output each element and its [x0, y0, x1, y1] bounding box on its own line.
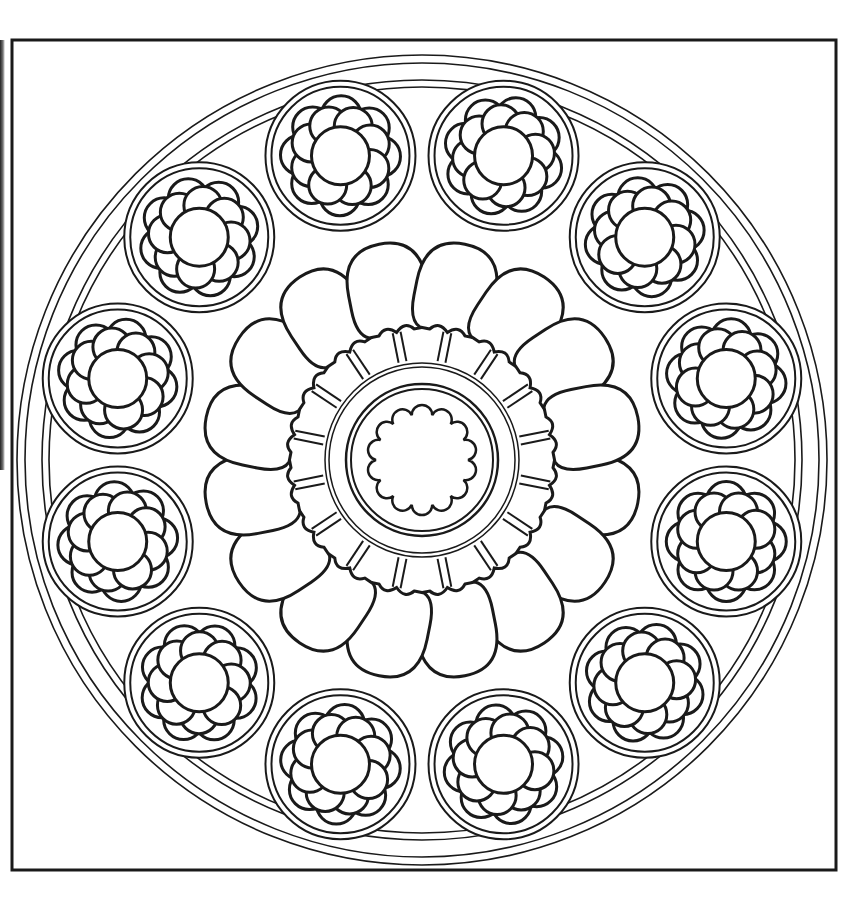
- flower-medallion: [429, 689, 579, 839]
- flower-medallion: [43, 467, 193, 617]
- flower-medallion: [651, 467, 801, 617]
- coloring-page: [0, 0, 845, 900]
- flower-center: [475, 127, 533, 185]
- flower-medallion: [124, 162, 274, 312]
- flower-medallion: [124, 608, 274, 758]
- hub-scallop-flower: [368, 405, 476, 515]
- flower-medallion: [265, 81, 415, 231]
- flower-medallion: [265, 689, 415, 839]
- flower-center: [616, 208, 674, 266]
- flower-center: [311, 127, 369, 185]
- flower-center: [475, 735, 533, 793]
- flower-center: [89, 513, 147, 571]
- center-hub: [325, 363, 519, 557]
- rose-window-artwork: [0, 0, 845, 900]
- flower-medallion: [429, 81, 579, 231]
- flower-center: [170, 654, 228, 712]
- flower-center: [616, 654, 674, 712]
- scan-edge-shadow: [0, 40, 5, 470]
- flower-medallion: [651, 303, 801, 453]
- flower-center: [311, 735, 369, 793]
- flower-center: [170, 208, 228, 266]
- flower-center: [89, 349, 147, 407]
- flower-center: [697, 349, 755, 407]
- flower-center: [697, 513, 755, 571]
- flower-medallion: [43, 303, 193, 453]
- flower-medallion: [570, 608, 720, 758]
- flower-medallion: [570, 162, 720, 312]
